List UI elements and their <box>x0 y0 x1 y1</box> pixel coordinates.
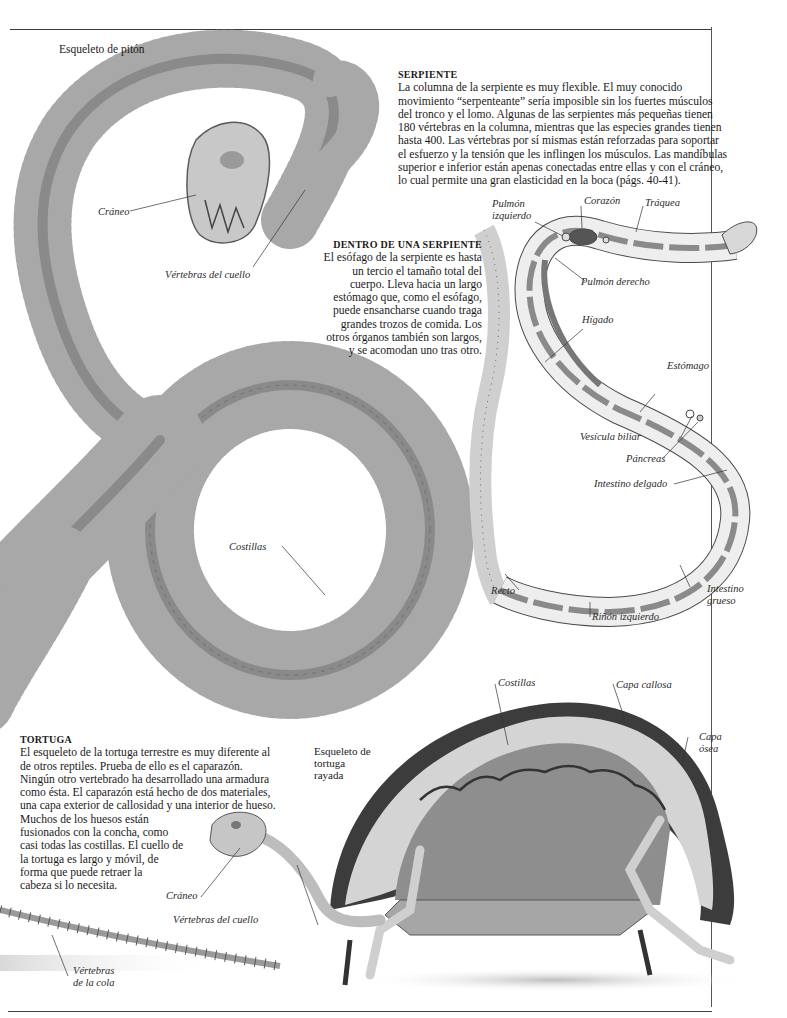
label-python-neck-vertebrae: Vértebras del cuello <box>165 269 250 281</box>
serpiente-line: del tronco y el lomo. Algunas de las ser… <box>398 108 718 121</box>
tortuga-line: Ningún otro vertebrado ha desarrollado u… <box>20 773 320 786</box>
serpiente-line: La columna de la serpiente es muy flexib… <box>398 81 718 94</box>
label-left-lung: Pulmón izquierdo <box>492 198 531 222</box>
tortuga-line: Muchos de los huesos están <box>20 813 320 826</box>
tortuga-line: la tortuga es largo y móvil, de <box>20 853 320 866</box>
serpiente-line: superior e inferior están apenas conecta… <box>398 161 718 174</box>
label-python-skull: Cráneo <box>98 206 130 218</box>
tortuga-line: casi todas las costillas. El cuello de <box>20 839 320 852</box>
tortuga-text-block: TORTUGA El esqueleto de la tortuga terre… <box>20 733 320 893</box>
dentro-line: grandes trozos de comida. Los <box>262 318 482 331</box>
dentro-line: otros órganos también son largos, <box>262 331 482 344</box>
dentro-heading: DENTRO DE UNA SERPIENTE <box>262 238 482 251</box>
serpiente-text-block: SERPIENTE La columna de la serpiente es … <box>398 68 718 188</box>
tortuga-line: una capa exterior de callosidad y una in… <box>20 799 320 812</box>
dentro-line: cuerpo. Lleva hacia un largo <box>262 278 482 291</box>
tortuga-line: El esqueleto de la tortuga terrestre es … <box>20 746 320 759</box>
python-skull <box>187 122 270 243</box>
dentro-line: un tercio el tamaño total del <box>262 265 482 278</box>
label-stomach: Estómago <box>667 360 709 372</box>
label-small-intestine: Intestino delgado <box>594 478 667 490</box>
python-caption: Esqueleto de pitón <box>59 43 145 56</box>
serpiente-line: 180 vértebras en la columna, mientras qu… <box>398 121 718 134</box>
serpiente-line: lo cual permite una gran elasticidad en … <box>398 174 718 187</box>
snake-anatomy-diagram <box>480 206 756 617</box>
label-trachea: Tráquea <box>645 197 680 209</box>
tortuga-line: fusionados con la concha, como <box>20 826 320 839</box>
tortuga-line: forma que puede retraer la <box>20 866 320 879</box>
label-bony-layer: Capa ósea <box>699 731 722 755</box>
label-liver: Hígado <box>582 314 614 326</box>
label-horny-layer: Capa callosa <box>616 679 672 691</box>
dentro-text-block: DENTRO DE UNA SERPIENTE El esófago de la… <box>262 238 482 358</box>
serpiente-heading: SERPIENTE <box>398 68 718 81</box>
tortuga-line: de otros reptiles. Prueba de ello es el … <box>20 760 320 773</box>
label-left-kidney: Riñón izquierdo <box>592 611 659 623</box>
serpiente-line: movimiento “serpenteante” sería imposibl… <box>398 95 718 108</box>
label-gall-bladder: Vesícula biliar <box>580 431 641 443</box>
label-rectum: Recto <box>491 585 515 597</box>
label-turtle-skull: Cráneo <box>166 890 198 902</box>
label-heart: Corazón <box>584 195 620 207</box>
label-right-lung: Pulmón derecho <box>581 276 650 288</box>
label-turtle-ribs: Costillas <box>498 677 535 689</box>
serpiente-line: el esfuerzo y la tensión que les infling… <box>398 148 718 161</box>
label-pancreas: Páncreas <box>626 453 665 465</box>
dentro-line: estómago que, como el esófago, <box>262 291 482 304</box>
serpiente-line: hasta 400. Las vértebras por sí mismas e… <box>398 134 718 147</box>
label-python-ribs: Costillas <box>229 541 266 553</box>
dentro-line: y se acomodan uno tras otro. <box>262 344 482 357</box>
turtle-caption: Esqueleto de tortuga rayada <box>314 745 371 781</box>
tortuga-heading: TORTUGA <box>20 733 320 746</box>
label-tail-vertebrae: Vértebras de la cola <box>73 965 114 989</box>
dentro-line: puede ensancharse cuando traga <box>262 304 482 317</box>
label-large-intestine: Intestino grueso <box>707 583 744 607</box>
dentro-line: El esófago de la serpiente es hasta <box>262 251 482 264</box>
label-turtle-neck-vertebrae: Vértebras del cuello <box>173 914 258 926</box>
tortuga-line: como ésta. El caparazón está hecho de do… <box>20 786 320 799</box>
